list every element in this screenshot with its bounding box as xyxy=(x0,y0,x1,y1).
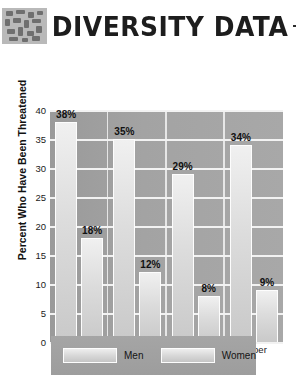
y-tick-35: 35 xyxy=(26,134,46,145)
bar-value-label: 38% xyxy=(56,109,76,120)
legend-label: Women xyxy=(222,350,256,361)
bar-groups: 38%18%35%12%29%8%34%9% xyxy=(50,110,283,342)
y-tick-40: 40 xyxy=(26,105,46,116)
page-header: DIVERSITY DATA xyxy=(0,4,296,48)
bar-men-lower: 38% xyxy=(55,122,77,342)
women-swatch xyxy=(161,348,215,363)
y-tick-25: 25 xyxy=(26,192,46,203)
bar-value-label: 34% xyxy=(231,132,251,143)
bar-value-label: 18% xyxy=(82,225,102,236)
bar-women-lower: 18% xyxy=(81,238,103,342)
page-title: DIVERSITY DATA xyxy=(52,11,289,42)
men-swatch xyxy=(63,348,117,363)
bar-women-working: 12% xyxy=(139,272,161,342)
y-tick-10: 10 xyxy=(26,279,46,290)
y-tick-20: 20 xyxy=(26,221,46,232)
bar-value-label: 8% xyxy=(201,283,215,294)
bar-group-working: 35%12% xyxy=(108,110,166,342)
bar-women-upper: 9% xyxy=(256,290,278,342)
y-tick-0: 0 xyxy=(26,337,46,348)
y-tick-5: 5 xyxy=(26,308,46,319)
legend-item-men: Men xyxy=(51,348,149,363)
plot-area: 38%18%35%12%29%8%34%9% xyxy=(50,110,283,342)
bar-group-middle: 29%8% xyxy=(167,110,225,342)
chart-legend: MenWomen xyxy=(51,336,256,375)
bar-value-label: 35% xyxy=(114,126,134,137)
bar-men-upper: 34% xyxy=(230,145,252,342)
bar-value-label: 9% xyxy=(260,277,274,288)
y-tick-30: 30 xyxy=(26,163,46,174)
bar-men-middle: 29% xyxy=(172,174,194,342)
chart: Percent Who Have Been Threatened 4035302… xyxy=(0,52,296,310)
legend-label: Men xyxy=(124,350,143,361)
bar-value-label: 29% xyxy=(173,161,193,172)
header-rule-right xyxy=(293,25,296,27)
y-axis-tick-labels: 4035302520151050 xyxy=(26,110,46,342)
bar-men-working: 35% xyxy=(113,139,135,342)
y-tick-15: 15 xyxy=(26,250,46,261)
diversity-data-chart-page: DIVERSITY DATA Percent Who Have Been Thr… xyxy=(0,0,296,391)
bar-group-upper: 34%9% xyxy=(225,110,283,342)
legend-item-women: Women xyxy=(149,348,256,363)
bar-value-label: 12% xyxy=(140,259,160,270)
bar-group-lower: 38%18% xyxy=(50,110,108,342)
mosaic-tiles-icon xyxy=(2,8,47,44)
